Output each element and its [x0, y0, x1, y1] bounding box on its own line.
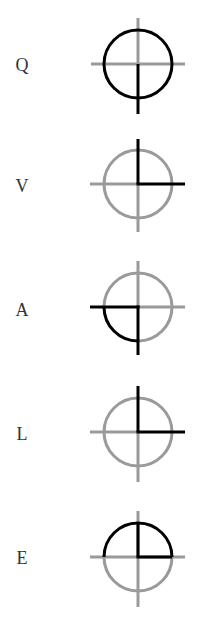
crosshair-glyph-v	[88, 134, 188, 234]
crosshair-glyph-a	[88, 257, 188, 357]
item-row-a: A	[0, 245, 198, 369]
letter-label: L	[14, 425, 30, 443]
crosshair-e-icon	[88, 507, 188, 607]
item-row-q: Q	[0, 2, 198, 126]
crosshair-l-icon	[88, 382, 188, 482]
crosshair-v-icon	[88, 134, 188, 234]
letter-label: V	[14, 177, 30, 195]
crosshair-glyph-e	[88, 507, 188, 607]
crosshair-glyph-q	[88, 14, 188, 114]
letter-label: Q	[14, 56, 30, 74]
item-row-v: V	[0, 122, 198, 246]
letter-label: A	[14, 301, 30, 319]
crosshair-glyph-l	[88, 382, 188, 482]
letter-label: E	[14, 549, 30, 567]
item-row-l: L	[0, 370, 198, 494]
crosshair-a-icon	[88, 257, 188, 357]
crosshair-q-icon	[88, 14, 188, 114]
item-row-e: E	[0, 495, 198, 619]
